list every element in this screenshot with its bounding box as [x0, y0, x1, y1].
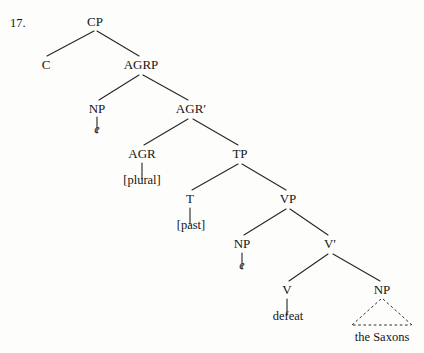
terminal-defeat: defeat [273, 310, 304, 323]
terminal-plural: [plural] [123, 174, 160, 187]
node-cp: CP [87, 15, 103, 28]
node-np-object: NP [374, 283, 391, 296]
branch-agrbar-tp [193, 119, 238, 145]
node-np-vp-trace: NP [234, 237, 251, 250]
node-vp: VP [280, 192, 297, 205]
branch-tp-t [192, 164, 238, 190]
branch-cp-c [47, 31, 94, 56]
terminal-the-saxons: the Saxons [355, 331, 410, 344]
terminal-empty-subject: e [94, 123, 99, 136]
dashed-triangle [352, 299, 412, 325]
branch-agrp-np [99, 75, 139, 100]
branch-tp-vp [242, 164, 286, 190]
branch-vp-np [244, 209, 286, 235]
node-v-bar: V′ [324, 237, 336, 250]
branch-cp-agrp [97, 31, 139, 56]
syntax-tree-figure: 17. CP C AGRP NP AGR′ [0, 0, 424, 353]
node-agr: AGR [128, 147, 155, 160]
branch-vp-vbar [290, 209, 328, 235]
node-agr-bar: AGR′ [176, 102, 206, 115]
node-tp: TP [232, 147, 247, 160]
branch-lines [47, 31, 380, 315]
tree-branch-canvas [0, 0, 424, 353]
node-v: V [282, 283, 291, 296]
node-t: T [186, 192, 194, 205]
branch-agrp-agrbar [143, 75, 188, 100]
branch-vbar-npobj [333, 254, 380, 281]
node-np-subject: NP [89, 102, 106, 115]
node-c: C [42, 58, 51, 71]
terminal-empty-vp: e [239, 259, 244, 272]
branch-vbar-v [289, 254, 328, 281]
node-agrp: AGRP [124, 58, 159, 71]
triangle-right-edge [383, 299, 412, 325]
branch-agrbar-agr [144, 119, 188, 145]
terminal-past: [past] [177, 219, 205, 232]
triangle-left-edge [352, 299, 381, 325]
